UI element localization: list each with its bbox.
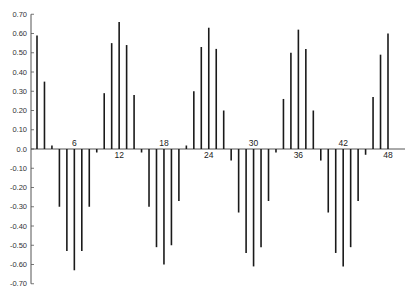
autocorrelation-chart: 0.700.600.500.400.300.200.100.0-0.10-0.2…	[0, 0, 413, 292]
x-tick-label: 6	[72, 138, 77, 148]
y-tick-label: 0.70	[12, 10, 27, 19]
y-tick-label: -0.20	[10, 183, 27, 192]
y-tick-label: -0.50	[10, 241, 27, 250]
y-tick-label: 0.10	[12, 125, 27, 134]
x-tick-label: 42	[338, 138, 348, 148]
y-tick-label: -0.10	[10, 164, 27, 173]
y-tick-label: -0.30	[10, 202, 27, 211]
y-tick-label: 0.60	[12, 29, 27, 38]
y-tick-label: 0.50	[12, 48, 27, 57]
y-tick-label: 0.40	[12, 68, 27, 77]
x-axis: 612182430364248	[31, 138, 405, 160]
y-tick-label: 0.0	[17, 145, 27, 154]
bars	[37, 22, 388, 270]
y-tick-label: -0.70	[10, 279, 27, 288]
x-tick-label: 48	[383, 150, 393, 160]
y-tick-label: 0.30	[12, 87, 27, 96]
x-tick-label: 24	[204, 150, 214, 160]
x-tick-label: 36	[294, 150, 304, 160]
y-tick-label: -0.40	[10, 222, 27, 231]
x-tick-label: 30	[249, 138, 259, 148]
x-tick-label: 18	[159, 138, 169, 148]
y-axis: 0.700.600.500.400.300.200.100.0-0.10-0.2…	[10, 10, 34, 289]
y-tick-label: -0.60	[10, 260, 27, 269]
x-tick-label: 12	[114, 150, 124, 160]
y-tick-label: 0.20	[12, 106, 27, 115]
